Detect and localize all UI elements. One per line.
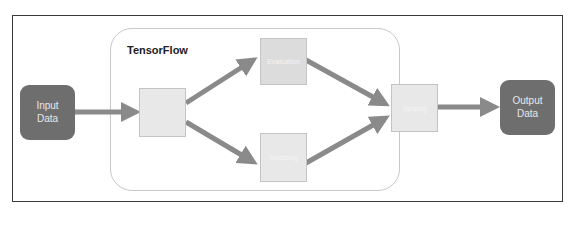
- input-data-node: Input Data: [20, 85, 75, 140]
- stage-entry: [139, 88, 186, 137]
- arrow-top-to-exit: [306, 60, 382, 102]
- output-data-node: Output Data: [500, 80, 555, 135]
- arrow-entry-to-top: [186, 62, 250, 103]
- arrow-entry-to-bottom: [186, 122, 250, 160]
- stage-bottom: Modeling: [260, 133, 307, 182]
- stage-exit: Serving: [391, 84, 438, 132]
- stage-top: Evaluation: [260, 38, 307, 85]
- arrow-bottom-to-exit: [306, 120, 382, 163]
